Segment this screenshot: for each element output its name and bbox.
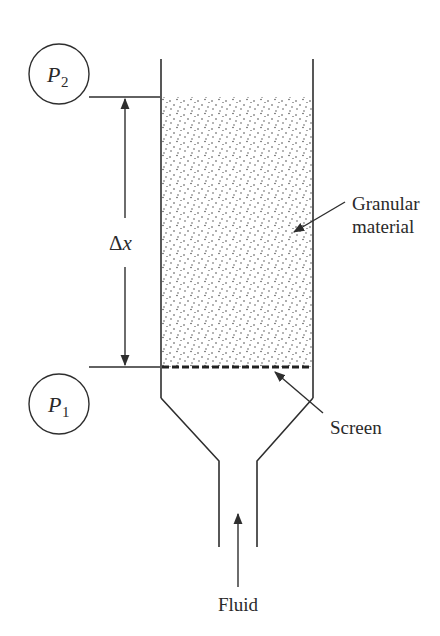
svg-text:P: P [46, 62, 60, 87]
packed-bed-diagram: Δx P 2 P 1 Granular material Screen Flui… [0, 0, 440, 636]
granular-label-line1: Granular [352, 193, 420, 214]
fluid-label: Fluid [218, 594, 259, 615]
screen-pointer-arrow [275, 372, 323, 413]
granular-material-bed [162, 97, 312, 367]
granular-label-line2: material [352, 216, 414, 237]
svg-text:1: 1 [62, 404, 70, 420]
screen-label: Screen [330, 417, 382, 438]
pressure-gauge-p2: P 2 [29, 44, 89, 104]
svg-text:P: P [47, 392, 61, 417]
delta-x-label: Δx [109, 231, 133, 255]
svg-text:2: 2 [61, 74, 69, 90]
funnel-right [257, 398, 313, 547]
pressure-gauge-p1: P 1 [29, 374, 89, 434]
funnel-left [161, 398, 219, 547]
